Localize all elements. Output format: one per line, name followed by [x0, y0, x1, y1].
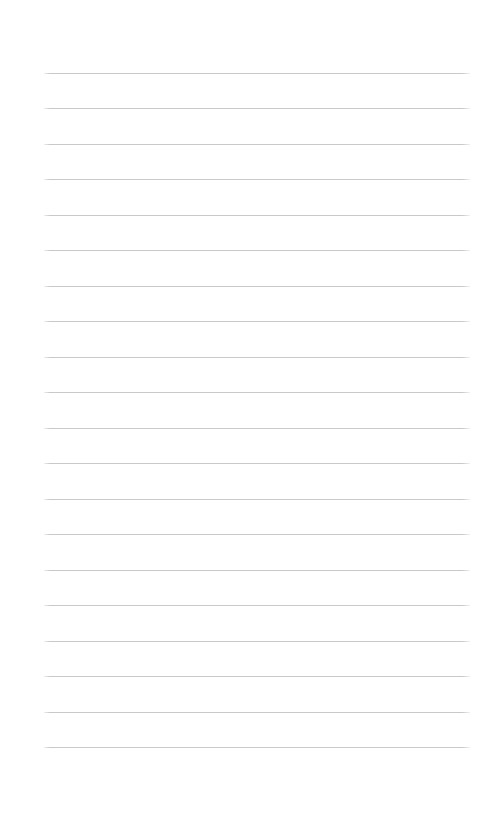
rule-line[interactable]: [44, 712, 470, 713]
rule-line[interactable]: [44, 392, 470, 393]
rule-line[interactable]: [44, 286, 470, 287]
ruled-paper-page: [0, 0, 491, 823]
rule-line[interactable]: [44, 144, 470, 145]
ruled-writing-area[interactable]: [0, 0, 491, 823]
bottom-margin-area: [0, 748, 491, 823]
rule-line[interactable]: [44, 73, 470, 74]
rule-line[interactable]: [44, 641, 470, 642]
rule-line[interactable]: [44, 357, 470, 358]
rule-line[interactable]: [44, 179, 470, 180]
rule-line[interactable]: [44, 570, 470, 571]
rule-line[interactable]: [44, 676, 470, 677]
rule-line[interactable]: [44, 499, 470, 500]
rule-line[interactable]: [44, 215, 470, 216]
rule-line[interactable]: [44, 108, 470, 109]
rule-line[interactable]: [44, 250, 470, 251]
rule-line[interactable]: [44, 605, 470, 606]
rule-line[interactable]: [44, 534, 470, 535]
rule-line[interactable]: [44, 321, 470, 322]
rule-line[interactable]: [44, 428, 470, 429]
rule-line[interactable]: [44, 463, 470, 464]
